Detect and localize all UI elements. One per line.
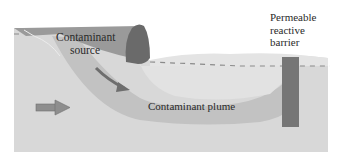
source-label-line2: source [56,44,115,57]
source-label-line1: Contaminant [56,31,115,44]
unsaturated-zone [150,53,328,66]
contaminant-plume-label: Contaminant plume [148,100,235,113]
barrier-label-line1: Permeable [270,11,316,24]
barrier-label-line3: barrier [270,36,316,49]
barrier-label-line2: reactive [270,24,316,37]
permeable-reactive-barrier [282,57,299,127]
contaminant-source-label: Contaminant source [56,31,115,56]
barrier-label: Permeable reactive barrier [270,11,316,49]
